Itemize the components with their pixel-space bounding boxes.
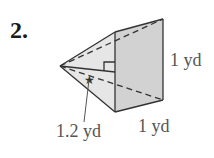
pyramid-figure: 2. ★ 1 yd 1 yd 1.2 yd (0, 0, 214, 158)
base-edge-label: 1 yd (138, 116, 170, 136)
slant-height-label: 1.2 yd (56, 121, 101, 141)
height-label: 1 yd (170, 50, 202, 70)
problem-number: 2. (10, 17, 28, 43)
star-marker: ★ (84, 73, 95, 87)
